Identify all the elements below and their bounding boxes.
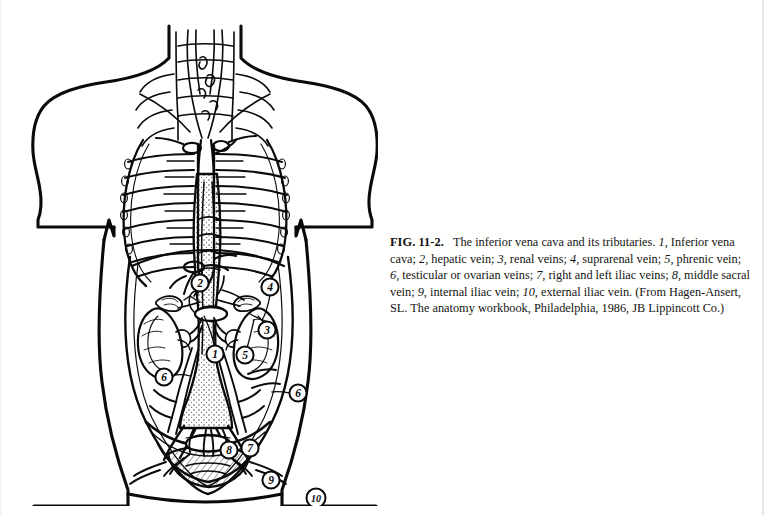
callout-number: 6 [295,387,301,399]
callout-external-iliac-vein: 10 [307,489,326,507]
legend-number-8: 8 [672,268,678,282]
legend-number-10: 10 [523,285,535,299]
anatomy-illustration: 123456678910 [18,14,378,506]
callout-internal-iliac-vein: 9 [262,471,279,488]
callout-number: 6 [161,371,167,383]
callout-renal-veins: 3 [258,321,275,338]
legend-number-3: 3 [498,252,504,266]
callout-testicular-ovarian-left: 6 [289,384,306,401]
callout-testicular-ovarian-right: 6 [155,368,172,385]
figure-source: (From Hagen-Ansert, SL. The anatomy work… [390,285,741,316]
legend-number-2: 2 [419,252,425,266]
neck-vessels [136,30,274,146]
callout-number: 3 [263,324,270,336]
callout-number: 9 [268,474,274,486]
callout-number: 10 [311,493,321,504]
torso-line-drawing: 123456678910 [18,14,378,506]
callout-hepatic-vein: 2 [191,274,208,291]
legend-number-7: 7 [536,268,542,282]
callout-number: 8 [226,444,232,456]
callout-number: 5 [242,349,248,361]
legend-number-9: 9 [418,285,424,299]
callout-number: 1 [212,348,218,360]
figure-number: FIG. 11-2. [390,235,444,249]
callout-suprarenal-vein: 4 [261,278,278,295]
figure-caption: FIG. 11-2.The inferior vena cava and its… [390,234,752,317]
callout-number: 2 [196,277,203,289]
right-kidney [138,296,191,379]
legend-number-4: 4 [570,252,576,266]
callout-middle-sacral-vein: 8 [220,441,237,458]
callout-phrenic-vein: 5 [236,346,253,363]
callout-number: 4 [266,281,273,293]
legend-number-5: 5 [664,252,670,266]
legend-number-1: 1 [659,235,665,249]
callout-iliac-veins: 7 [241,439,258,456]
page-edge-left [0,0,2,515]
scanned-page: 123456678910 FIG. 11-2.The inferior vena… [0,0,764,515]
callout-inferior-vena-cava: 1 [206,345,223,362]
legend-number-6: 6 [390,268,396,282]
